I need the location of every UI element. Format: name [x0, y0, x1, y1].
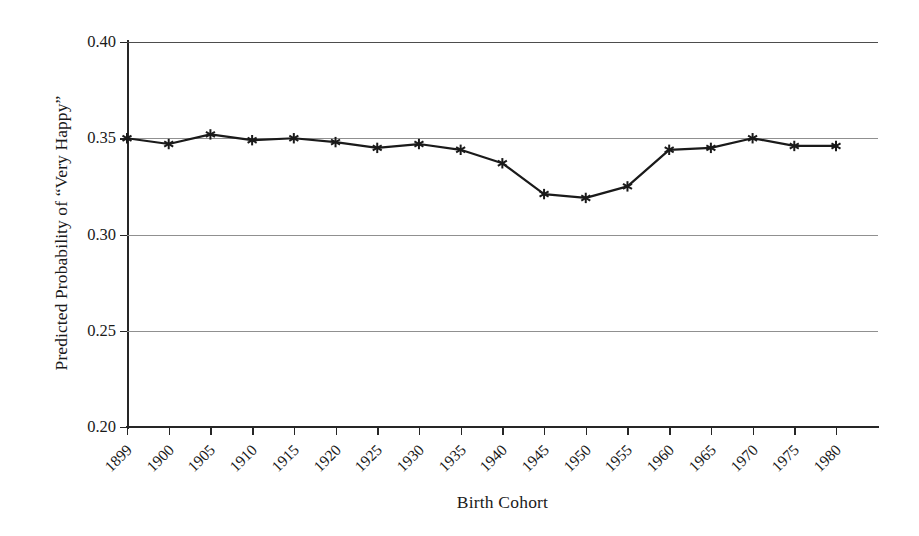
- x-tick-mark: [669, 427, 670, 435]
- x-tick-label: 1950: [560, 441, 595, 476]
- x-tick-label: 1910: [226, 441, 261, 476]
- x-tick-mark: [461, 427, 462, 435]
- x-tick-mark: [753, 427, 754, 435]
- x-tick-mark: [544, 427, 545, 435]
- x-tick-label: 1970: [727, 441, 762, 476]
- x-tick-label: 1930: [393, 441, 428, 476]
- x-axis-title: Birth Cohort: [127, 492, 878, 513]
- data-series-line: [127, 42, 878, 427]
- x-tick-label: 1899: [101, 441, 136, 476]
- x-tick-mark: [711, 427, 712, 435]
- x-tick-mark: [294, 427, 295, 435]
- x-tick-label: 1935: [435, 441, 470, 476]
- x-tick-mark: [336, 427, 337, 435]
- x-tick-label: 1960: [643, 441, 678, 476]
- x-tick-mark: [627, 427, 628, 435]
- x-tick-mark: [127, 427, 128, 435]
- y-tick-label: 0.25: [87, 321, 116, 341]
- y-tick-mark: [120, 331, 127, 332]
- x-tick-label: 1925: [351, 441, 386, 476]
- x-tick-mark: [210, 427, 211, 435]
- x-tick-mark: [252, 427, 253, 435]
- plot-area: 0.200.250.300.350.40 1899190019051910191…: [127, 42, 878, 427]
- x-tick-mark: [419, 427, 420, 435]
- x-tick-mark: [377, 427, 378, 435]
- x-tick-label: 1980: [810, 441, 845, 476]
- x-tick-mark: [586, 427, 587, 435]
- x-tick-label: 1920: [310, 441, 345, 476]
- x-tick-mark: [836, 427, 837, 435]
- y-axis-title: Predicted Probability of “Very Happy”: [44, 18, 78, 448]
- y-tick-label: 0.40: [87, 32, 116, 52]
- y-tick-label: 0.30: [87, 225, 116, 245]
- y-tick-label: 0.35: [87, 128, 116, 148]
- x-tick-label: 1940: [476, 441, 511, 476]
- series-polyline: [127, 134, 836, 198]
- chart-figure: Predicted Probability of “Very Happy” 0.…: [0, 0, 919, 536]
- x-tick-mark: [794, 427, 795, 435]
- y-tick-mark: [120, 42, 127, 43]
- x-tick-mark: [502, 427, 503, 435]
- x-tick-label: 1905: [184, 441, 219, 476]
- y-tick-mark: [120, 427, 127, 428]
- x-tick-label: 1945: [518, 441, 553, 476]
- x-tick-label: 1915: [268, 441, 303, 476]
- x-tick-mark: [169, 427, 170, 435]
- y-tick-label: 0.20: [87, 417, 116, 437]
- y-tick-mark: [120, 235, 127, 236]
- x-tick-label: 1955: [602, 441, 637, 476]
- x-tick-label: 1900: [143, 441, 178, 476]
- x-tick-label: 1975: [768, 441, 803, 476]
- x-tick-label: 1965: [685, 441, 720, 476]
